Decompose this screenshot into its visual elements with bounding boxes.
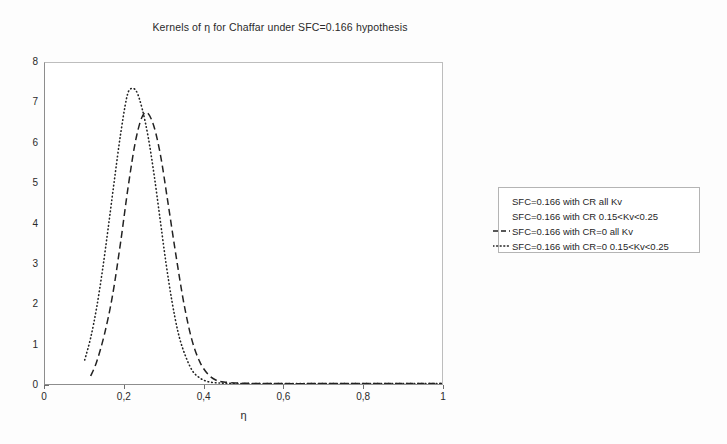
- plot-area: [44, 62, 443, 385]
- legend-item: SFC=0.166 with CR=0 all Kv: [493, 223, 705, 239]
- y-tick-label: 0: [10, 380, 38, 390]
- x-tick-mark: [283, 385, 284, 389]
- x-tick-label: 0,6: [263, 391, 303, 402]
- x-tick-label: 1: [423, 391, 463, 402]
- y-axis-tick-labels: 012345678: [6, 62, 38, 385]
- y-tick-label: 7: [10, 97, 38, 107]
- legend-item: SFC=0.166 with CR=0 0.15<Kv<0.25: [493, 238, 705, 254]
- legend-swatch-none: [493, 196, 510, 206]
- x-tick-mark: [124, 385, 125, 389]
- chart-title: Kernels of η for Chaffar under SFC=0.166…: [0, 21, 560, 33]
- legend-swatch-none: [493, 211, 510, 221]
- legend-label: SFC=0.166 with CR all Kv: [512, 196, 622, 207]
- x-tick-mark: [204, 385, 205, 389]
- legend-swatch-dashed: [493, 226, 510, 236]
- x-tick-mark: [363, 385, 364, 389]
- legend-swatch-dotted: [493, 241, 510, 251]
- x-tick-label: 0,4: [184, 391, 224, 402]
- curves-svg: [45, 63, 442, 384]
- curve-dotted: [85, 88, 442, 383]
- chart-figure: Kernels of η for Chaffar under SFC=0.166…: [0, 0, 727, 444]
- y-tick-label: 6: [10, 138, 38, 148]
- x-tick-label: 0,2: [104, 391, 144, 402]
- x-tick-label: 0,8: [343, 391, 383, 402]
- legend-label: SFC=0.166 with CR=0 all Kv: [512, 226, 633, 237]
- legend-label: SFC=0.166 with CR=0 0.15<Kv<0.25: [512, 241, 669, 252]
- y-tick-label: 4: [10, 219, 38, 229]
- y-tick-label: 1: [10, 340, 38, 350]
- legend: SFC=0.166 with CR all KvSFC=0.166 with C…: [498, 187, 700, 253]
- x-tick-label: 0: [24, 391, 64, 402]
- legend-label: SFC=0.166 with CR 0.15<Kv<0.25: [512, 211, 658, 222]
- x-axis-tick-labels: 00,20,40,60,81: [44, 391, 443, 407]
- y-tick-label: 8: [10, 57, 38, 67]
- curve-dashed: [91, 112, 442, 383]
- y-tick-label: 5: [10, 178, 38, 188]
- y-tick-label: 2: [10, 299, 38, 309]
- legend-item: SFC=0.166 with CR all Kv: [493, 193, 705, 209]
- legend-item: SFC=0.166 with CR 0.15<Kv<0.25: [493, 208, 705, 224]
- y-tick-label: 3: [10, 259, 38, 269]
- x-tick-mark: [443, 385, 444, 389]
- x-axis-title: η: [44, 409, 443, 421]
- x-tick-mark: [44, 385, 45, 389]
